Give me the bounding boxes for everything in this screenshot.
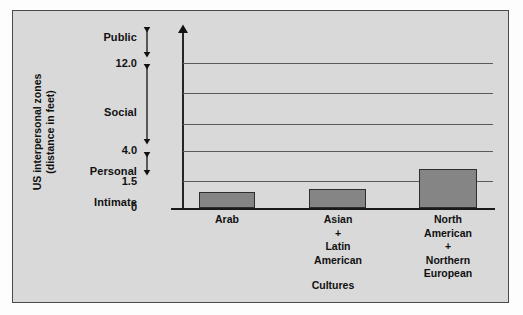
category-label-arab: Arab <box>199 213 255 227</box>
cat3-line1: North <box>434 213 462 225</box>
bar-asian-latin-american <box>309 189 366 208</box>
gridline-b <box>183 93 493 94</box>
y-tick-0: 0 <box>131 201 137 213</box>
cat3-line4: Northern <box>426 254 470 266</box>
cat3-line5: European <box>424 267 472 279</box>
cat2-line3: Latin <box>325 240 350 252</box>
y-tick-4: 4.0 <box>122 144 137 156</box>
y-axis-arrow <box>177 23 191 213</box>
cat2-line4: American <box>314 254 362 266</box>
plot-area: Arab Asian + Latin American North Americ… <box>171 11 510 304</box>
chart-panel: US interpersonal zones (distance in feet… <box>12 10 509 303</box>
y-tick-12: 12.0 <box>116 57 137 69</box>
cat3-line2: American <box>424 227 472 239</box>
zone-axis-column: US interpersonal zones (distance in feet… <box>13 11 173 304</box>
cat2-line1: Asian <box>324 213 353 225</box>
cat3-line3: + <box>445 240 451 252</box>
x-axis-baseline <box>171 208 495 210</box>
y-axis-title-line2: (distance in feet) <box>44 90 56 173</box>
cat2-line2: + <box>335 227 341 239</box>
y-tick-1-5: 1.5 <box>122 175 137 187</box>
gridline-12 <box>183 63 493 64</box>
figure: US interpersonal zones (distance in feet… <box>0 0 523 315</box>
y-axis-title: US interpersonal zones (distance in feet… <box>31 57 57 207</box>
gridline-c <box>183 124 493 125</box>
bar-north-american-northern-european <box>419 169 477 208</box>
zone-bracket-arrows <box>141 11 161 221</box>
zone-label-social: Social <box>104 106 137 118</box>
y-axis-title-line1: US interpersonal zones <box>31 74 43 191</box>
category-label-asian-latin-american: Asian + Latin American <box>304 213 372 267</box>
category-label-north-american-northern-european: North American + Northern European <box>414 213 482 281</box>
cat1-line1: Arab <box>215 213 239 225</box>
x-axis-title: Cultures <box>171 279 495 291</box>
bar-arab <box>199 192 255 208</box>
gridline-4 <box>183 151 493 152</box>
zone-label-public: Public <box>103 31 137 43</box>
